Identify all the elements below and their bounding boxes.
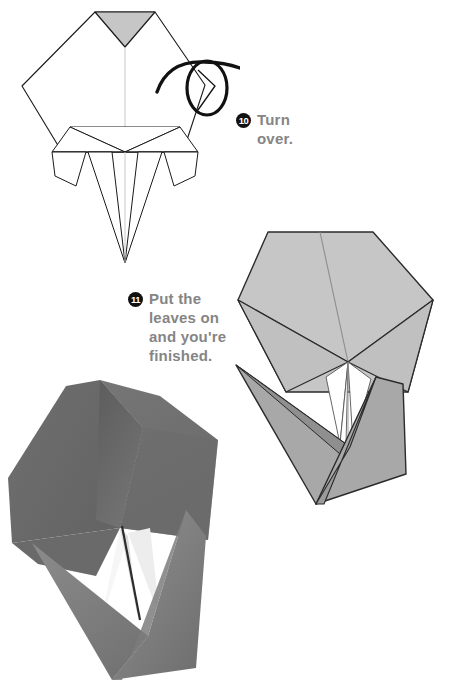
left-long-point bbox=[88, 152, 125, 263]
step-badge-11: 11 bbox=[128, 292, 143, 307]
step-badge-10: 10 bbox=[236, 113, 251, 128]
step-10-diagram bbox=[0, 0, 240, 280]
callout-step-10: 10 Turn over. bbox=[236, 110, 293, 148]
step-11-diagram bbox=[228, 222, 463, 517]
step-11-flower-head bbox=[238, 232, 433, 392]
left-lower-flap bbox=[52, 152, 86, 186]
step-10-paper-outline bbox=[22, 12, 205, 263]
finished-model-photo bbox=[0, 368, 250, 689]
step-text-11: Put the leaves on and you're finished. bbox=[149, 289, 226, 365]
step-text-10: Turn over. bbox=[257, 110, 293, 148]
right-long-point bbox=[125, 152, 162, 263]
right-lower-flap bbox=[164, 152, 198, 186]
instruction-page: 10 Turn over. bbox=[0, 0, 463, 689]
callout-step-11: 11 Put the leaves on and you're finished… bbox=[128, 289, 226, 365]
